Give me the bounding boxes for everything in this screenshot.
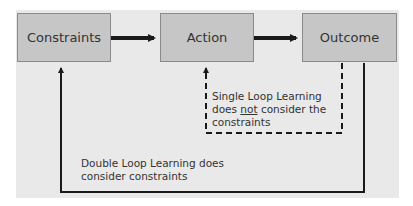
single-note-emphasis: not <box>240 103 257 115</box>
single-note-line3: constraints <box>212 116 342 129</box>
single-note-line1: Single Loop Learning <box>212 90 342 103</box>
single-note-line2: does not consider the <box>212 103 342 116</box>
double-note-line1: Double Loop Learning does <box>81 157 251 170</box>
single-note-pre: does <box>212 103 240 115</box>
single-loop-note: Single Loop Learning does not consider t… <box>212 90 342 129</box>
single-note-post: consider the <box>258 103 327 115</box>
double-loop-note: Double Loop Learning does consider const… <box>81 157 251 183</box>
double-note-line2: consider constraints <box>81 170 251 183</box>
